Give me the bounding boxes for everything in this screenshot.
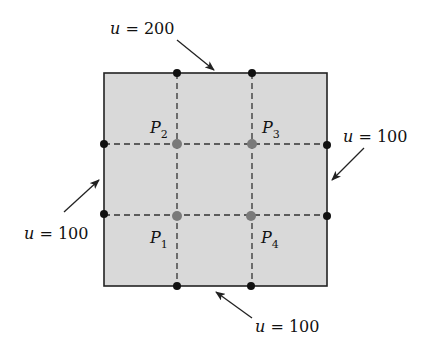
boundary-label-top: u = 200 — [110, 19, 174, 38]
arrow-bottom — [216, 292, 252, 318]
boundary-label-right: u = 100 — [343, 127, 407, 146]
interior-dot-p4 — [246, 211, 256, 221]
boundary-dot-top-1 — [173, 69, 181, 77]
interior-dot-p3 — [247, 139, 257, 149]
boundary-dot-bottom-2 — [247, 282, 255, 290]
arrow-top — [177, 40, 214, 70]
boundary-dot-left-1 — [100, 140, 108, 148]
interior-dot-p2 — [172, 139, 182, 149]
arrow-right — [332, 148, 364, 180]
interior-dot-p1 — [172, 211, 182, 221]
boundary-dot-right-1 — [323, 141, 331, 149]
arrow-left — [64, 180, 99, 212]
boundary-label-left: u = 100 — [24, 224, 88, 243]
domain-square — [104, 73, 327, 286]
boundary-label-bottom: u = 100 — [255, 317, 319, 336]
diagram-canvas: P2 P3 P1 P4 u = 200 u = 100 u = 100 u = … — [0, 0, 428, 357]
boundary-dot-top-2 — [248, 69, 256, 77]
boundary-dot-right-2 — [323, 212, 331, 220]
boundary-dot-left-2 — [100, 210, 108, 218]
boundary-dot-bottom-1 — [173, 282, 181, 290]
